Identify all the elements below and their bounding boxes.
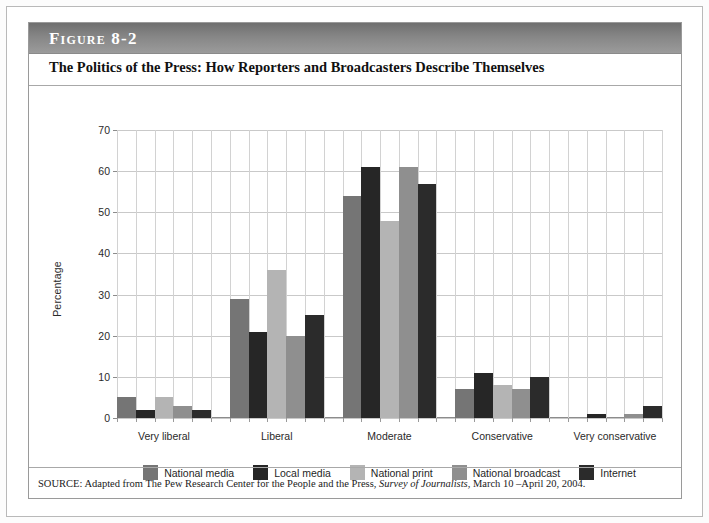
gridline-vertical xyxy=(117,130,118,418)
gridline-vertical xyxy=(192,130,193,418)
legend-label: National media xyxy=(164,467,234,479)
bar xyxy=(286,336,305,418)
gridline-horizontal xyxy=(117,418,662,419)
x-tick-mark xyxy=(286,418,287,422)
source-prefix: SOURCE: Adapted from The Pew Research Ce… xyxy=(38,478,379,489)
source-publication: Survey of Journalists xyxy=(379,478,468,489)
bar xyxy=(267,270,286,418)
x-tick-mark xyxy=(361,418,362,422)
bar xyxy=(192,410,211,418)
bar xyxy=(305,315,324,418)
x-tick-mark xyxy=(136,418,137,422)
x-tick-mark xyxy=(380,418,381,422)
legend-label: National print xyxy=(371,467,433,479)
bar xyxy=(474,373,493,418)
y-tick-label: 30 xyxy=(98,289,110,301)
x-category-label: Liberal xyxy=(261,430,293,442)
x-tick-mark xyxy=(624,418,625,422)
y-tick-label: 60 xyxy=(98,165,110,177)
x-tick-mark xyxy=(662,418,663,422)
x-tick-mark xyxy=(606,418,607,422)
x-tick-mark xyxy=(249,418,250,422)
x-tick-mark xyxy=(474,418,475,422)
x-tick-mark xyxy=(587,418,588,422)
x-tick-mark xyxy=(493,418,494,422)
x-tick-mark xyxy=(512,418,513,422)
x-tick-mark xyxy=(343,418,344,422)
bar xyxy=(343,196,362,418)
gridline-horizontal xyxy=(117,171,662,172)
x-tick-mark xyxy=(436,418,437,422)
bar xyxy=(230,299,249,418)
gridline-horizontal xyxy=(117,130,662,131)
figure-number-label: Figure 8-2 xyxy=(49,29,138,49)
source-note: SOURCE: Adapted from The Pew Research Ce… xyxy=(38,478,674,489)
gridline-vertical xyxy=(493,130,494,418)
x-category-label: Conservative xyxy=(472,430,533,442)
bar xyxy=(136,410,155,418)
source-divider xyxy=(29,467,681,468)
bar xyxy=(155,397,174,418)
y-tick-label: 0 xyxy=(104,412,110,424)
x-category-label: Very conservative xyxy=(574,430,657,442)
x-tick-mark xyxy=(455,418,456,422)
bar xyxy=(455,389,474,418)
bar xyxy=(380,221,399,418)
bar xyxy=(493,385,512,418)
x-tick-mark xyxy=(399,418,400,422)
source-suffix: , March 10 –April 20, 2004. xyxy=(468,478,586,489)
y-tick-label: 10 xyxy=(98,371,110,383)
y-tick-label: 50 xyxy=(98,206,110,218)
gridline-vertical xyxy=(549,130,550,418)
gridline-vertical xyxy=(324,130,325,418)
gridline-vertical xyxy=(624,130,625,418)
bar xyxy=(117,397,136,418)
bar xyxy=(624,414,643,418)
gridline-vertical xyxy=(662,130,663,418)
bar xyxy=(361,167,380,418)
gridline-vertical xyxy=(643,130,644,418)
bar xyxy=(530,377,549,418)
y-tick-label: 70 xyxy=(98,124,110,136)
bar xyxy=(249,332,268,418)
x-tick-mark xyxy=(211,418,212,422)
x-tick-mark xyxy=(192,418,193,422)
x-category-label: Moderate xyxy=(367,430,411,442)
x-tick-mark xyxy=(549,418,550,422)
bar xyxy=(643,406,662,418)
x-tick-mark xyxy=(117,418,118,422)
chart-container: Percentage 010203040506070Very liberalLi… xyxy=(29,85,681,475)
gridline-vertical xyxy=(455,130,456,418)
gridline-vertical xyxy=(606,130,607,418)
x-tick-mark xyxy=(643,418,644,422)
legend-label: Local media xyxy=(274,467,331,479)
figure-page: Figure 8-2 The Politics of the Press: Ho… xyxy=(0,0,709,523)
x-tick-mark xyxy=(324,418,325,422)
figure-number-band: Figure 8-2 xyxy=(29,23,681,54)
figure-title: The Politics of the Press: How Reporters… xyxy=(49,59,659,76)
x-tick-mark xyxy=(530,418,531,422)
x-tick-mark xyxy=(155,418,156,422)
legend-label: National broadcast xyxy=(473,467,561,479)
x-tick-mark xyxy=(568,418,569,422)
gridline-vertical xyxy=(530,130,531,418)
y-axis-title: Percentage xyxy=(51,234,63,344)
plot-area: 010203040506070Very liberalLiberalModera… xyxy=(117,130,662,418)
figure-frame: Figure 8-2 The Politics of the Press: Ho… xyxy=(28,22,682,499)
gridline-horizontal xyxy=(117,212,662,213)
x-tick-mark xyxy=(173,418,174,422)
bar xyxy=(512,389,531,418)
x-category-label: Very liberal xyxy=(138,430,190,442)
bar xyxy=(173,406,192,418)
gridline-vertical xyxy=(587,130,588,418)
x-tick-mark xyxy=(418,418,419,422)
x-tick-mark xyxy=(267,418,268,422)
gridline-vertical xyxy=(155,130,156,418)
gridline-vertical xyxy=(173,130,174,418)
gridline-vertical xyxy=(568,130,569,418)
y-tick-label: 40 xyxy=(98,247,110,259)
bar xyxy=(587,414,606,418)
gridline-vertical xyxy=(136,130,137,418)
y-tick-label: 20 xyxy=(98,330,110,342)
x-tick-mark xyxy=(305,418,306,422)
